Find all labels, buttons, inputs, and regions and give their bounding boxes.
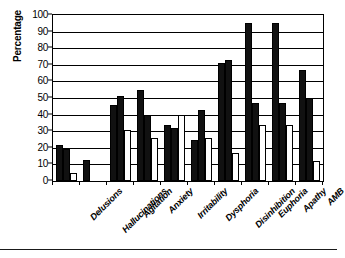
bar (299, 70, 306, 181)
bar (144, 115, 151, 181)
bar-group (215, 15, 242, 181)
y-axis-tick-label: 60 (37, 75, 48, 86)
bar (259, 125, 266, 181)
bar-group (53, 15, 80, 181)
bar (70, 173, 77, 181)
bar (218, 63, 225, 181)
bar-group (80, 15, 107, 181)
bar (63, 149, 70, 181)
x-axis-tick-mark (106, 181, 107, 185)
x-axis-tick-mark (52, 181, 53, 185)
y-axis-tick-label: 100 (32, 9, 48, 20)
x-axis-tick-mark (214, 181, 215, 185)
bar (286, 125, 293, 181)
bar-group (269, 15, 296, 181)
bar (198, 110, 205, 181)
y-axis-tick-label: 40 (37, 108, 48, 119)
y-axis-tick-label: 20 (37, 141, 48, 152)
x-axis-tick-mark (187, 181, 188, 185)
bar-group (188, 15, 215, 181)
x-axis-category-label: Delusions (88, 186, 124, 222)
bar-groups (53, 15, 323, 181)
bar (313, 161, 320, 181)
bar (83, 160, 90, 181)
x-axis-tick-mark (241, 181, 242, 185)
bar (178, 115, 185, 181)
bar (56, 145, 63, 181)
y-axis-tick-label: 30 (37, 125, 48, 136)
bar (117, 96, 124, 181)
y-axis-tick-labels: 1009080706050403020100 (22, 8, 48, 183)
bar (151, 138, 158, 181)
x-axis-tick-mark (79, 181, 80, 185)
bar (252, 103, 259, 181)
x-axis-tick-mark (133, 181, 134, 185)
y-axis-tick-label: 10 (37, 158, 48, 169)
bar (191, 140, 198, 182)
bar-group (296, 15, 323, 181)
x-axis-category-label: AMB (324, 186, 345, 207)
bar (171, 128, 178, 181)
x-axis-tick-mark (322, 181, 323, 185)
bar (137, 90, 144, 181)
x-axis-tick-mark (295, 181, 296, 185)
bar (232, 153, 239, 181)
bar (164, 125, 171, 181)
bar (110, 105, 117, 181)
plot-area (52, 14, 324, 182)
bar (124, 130, 131, 181)
x-axis-tick-marks (52, 181, 324, 185)
bar (245, 23, 252, 181)
x-axis-tick-mark (268, 181, 269, 185)
bar (279, 103, 286, 181)
bar-group (107, 15, 134, 181)
x-axis-category-labels: DelusionsHallucinationsAgitationAnxietyI… (52, 186, 332, 248)
y-axis-tick-label: 90 (37, 25, 48, 36)
y-axis-tick-label: 70 (37, 58, 48, 69)
bar (205, 138, 212, 181)
bottom-divider-rule (0, 249, 337, 250)
bar (225, 60, 232, 181)
bar-group (242, 15, 269, 181)
bar (272, 23, 279, 181)
bar-group (134, 15, 161, 181)
bar (306, 98, 313, 181)
x-axis-tick-mark (160, 181, 161, 185)
y-axis-tick-label: 80 (37, 42, 48, 53)
y-axis-tick-label: 50 (37, 92, 48, 103)
bar-group (161, 15, 188, 181)
